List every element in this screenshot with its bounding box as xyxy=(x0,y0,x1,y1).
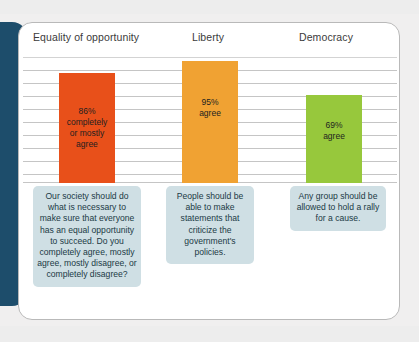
bar-value-line4: agree xyxy=(76,139,98,149)
column-header-row: Equality of opportunity Liberty Democrac… xyxy=(19,23,399,57)
caption-row: Our society should do what is necessary … xyxy=(19,186,400,320)
caption-box-liberty: People should be able to make statements… xyxy=(166,186,254,264)
plot-area: 86% completely or mostly agree 95% agree… xyxy=(19,57,400,183)
column-header-democracy: Democracy xyxy=(299,31,353,43)
bar-value-line1: 69% xyxy=(325,120,342,130)
gridline xyxy=(23,57,397,58)
bar-value-line2: completely xyxy=(67,117,108,127)
bar-value-line2: agree xyxy=(199,108,221,118)
bar-value-line1: 86% xyxy=(78,106,95,116)
figure-root: Equality of opportunity Liberty Democrac… xyxy=(0,0,419,342)
bar-value-label-liberty: 95% agree xyxy=(197,97,223,119)
bar-liberty: 95% agree xyxy=(182,61,238,183)
bar-democracy: 69% agree xyxy=(306,95,362,183)
bar-value-line3: or mostly xyxy=(70,128,104,138)
bar-value-line1: 95% xyxy=(201,97,218,107)
caption-box-equality: Our society should do what is necessary … xyxy=(33,186,141,287)
bar-value-line2: agree xyxy=(323,131,345,141)
caption-box-democracy: Any group should be allowed to hold a ra… xyxy=(290,186,386,231)
column-header-equality: Equality of opportunity xyxy=(33,31,139,43)
bar-equality-of-opportunity: 86% completely or mostly agree xyxy=(59,73,115,183)
bar-value-label-equality: 86% completely or mostly agree xyxy=(65,106,110,150)
column-header-liberty: Liberty xyxy=(192,31,224,43)
chart-card: Equality of opportunity Liberty Democrac… xyxy=(18,22,400,320)
bar-value-label-democracy: 69% agree xyxy=(321,120,347,142)
